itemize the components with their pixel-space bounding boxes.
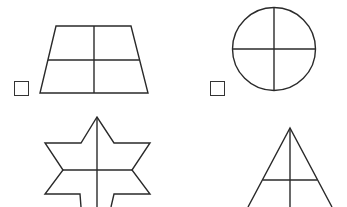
circle-shape xyxy=(233,8,316,91)
shapes-drawing xyxy=(0,0,347,207)
circle-answer-checkbox[interactable] xyxy=(210,81,225,96)
trapezoid-answer-checkbox[interactable] xyxy=(14,81,29,96)
star-shape xyxy=(45,117,150,207)
worksheet-canvas xyxy=(0,0,347,207)
triangle-shape xyxy=(248,128,332,207)
trapezoid-shape xyxy=(40,26,148,93)
